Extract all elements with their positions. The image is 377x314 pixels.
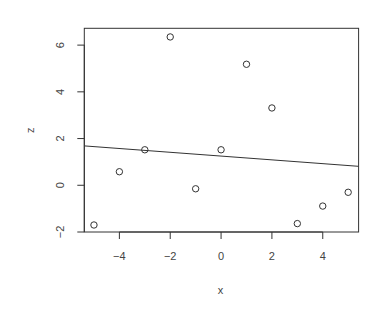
x-tick-label: 0 — [218, 250, 224, 262]
data-point — [320, 203, 326, 209]
y-tick-label: 4 — [54, 89, 66, 95]
x-tick-label: 4 — [320, 250, 326, 262]
x-axis-label: x — [218, 284, 224, 296]
data-point — [294, 220, 300, 226]
plot-frame — [84, 28, 358, 232]
x-tick-label: −4 — [113, 250, 126, 262]
y-axis: −20246 — [54, 42, 84, 238]
data-point — [91, 222, 97, 228]
data-point — [345, 189, 351, 195]
data-point — [269, 105, 275, 111]
points-layer — [91, 34, 352, 228]
data-point — [192, 186, 198, 192]
y-tick-label: 0 — [54, 182, 66, 188]
y-tick-label: 2 — [54, 135, 66, 141]
x-tick-label: 2 — [269, 250, 275, 262]
scatter-plot: −4−2024 −20246 x z — [0, 0, 377, 314]
y-tick-label: −2 — [54, 226, 66, 239]
regression-line — [84, 146, 358, 166]
y-tick-label: 6 — [54, 42, 66, 48]
data-point — [218, 147, 224, 153]
y-axis-label: z — [24, 127, 36, 133]
data-point — [116, 169, 122, 175]
data-point — [167, 34, 173, 40]
x-axis: −4−2024 — [113, 232, 326, 262]
x-tick-label: −2 — [164, 250, 177, 262]
data-point — [243, 61, 249, 67]
